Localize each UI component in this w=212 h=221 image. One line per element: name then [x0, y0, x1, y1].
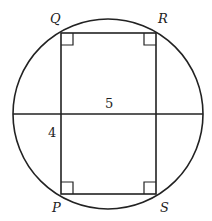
label-R: R	[157, 11, 168, 26]
right-angle-marker-R	[144, 33, 156, 45]
measurement-5: 5	[105, 96, 113, 111]
label-Q: Q	[50, 11, 61, 26]
label-P: P	[51, 200, 61, 215]
right-angle-marker-S	[144, 182, 156, 194]
measurement-4: 4	[48, 125, 56, 140]
right-angle-marker-P	[61, 182, 73, 194]
label-S: S	[160, 200, 169, 215]
right-angle-marker-Q	[61, 33, 73, 45]
geometry-diagram: Q R P S 5 4	[0, 0, 212, 221]
